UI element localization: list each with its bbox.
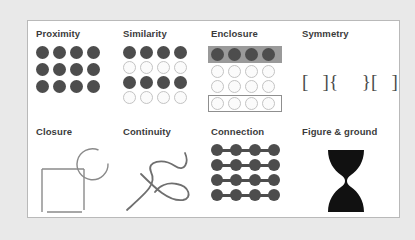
dot [123,76,136,89]
dot-row [36,46,104,59]
dot [245,48,258,61]
dot [230,144,242,156]
closure-art [36,144,124,218]
dot [262,80,275,93]
dot [228,97,241,110]
dot-row-connected [211,174,280,186]
dot [245,80,258,93]
dot [36,46,49,59]
cell-proximity: Proximity [36,28,104,97]
dot [211,65,224,78]
dot [140,46,153,59]
cell-title-symmetry: Symmetry [302,28,398,39]
enclosure-dot-grid [211,46,282,114]
cell-title-continuity: Continuity [123,126,211,137]
cell-figure-ground: Figure & ground [302,126,390,218]
dot [228,80,241,93]
dot-row [211,65,282,78]
dot [87,80,100,93]
dot [268,189,280,201]
dot-row [123,91,191,104]
dot [157,46,170,59]
crossing-curve-b-icon [141,174,189,200]
dot [211,174,223,186]
cell-title-closure: Closure [36,126,124,137]
figure-ground-art [302,144,390,218]
dot [174,46,187,59]
dot [157,91,170,104]
dot [268,144,280,156]
dot [53,63,66,76]
dot [211,159,223,171]
dot [174,76,187,89]
rubin-vase-icon [328,150,364,212]
similarity-dot-grid [123,46,191,106]
gestalt-principles-panel: Proximity Similarity [27,20,400,218]
dot [36,63,49,76]
cell-title-similarity: Similarity [123,28,191,39]
dot [123,91,136,104]
cell-continuity: Continuity [123,126,211,218]
dot-row [123,46,191,59]
dot-row [36,80,104,93]
dot [157,61,170,74]
dot-row [123,76,191,89]
dot [211,144,223,156]
dot [262,48,275,61]
dot [174,61,187,74]
symmetry-brackets: [ ]{ }[ ] [302,70,398,94]
dot [36,80,49,93]
dot [211,80,224,93]
dot [230,189,242,201]
dot-row [36,63,104,76]
dot [211,97,224,110]
dot-row-enclosed-band [208,46,282,63]
dot-row-connected [211,159,280,171]
dot [228,65,241,78]
cell-similarity: Similarity [123,28,191,106]
dot [230,159,242,171]
dot [230,174,242,186]
dot-row-connected [211,189,280,201]
dot [268,159,280,171]
dot [249,174,261,186]
dot-row-enclosed-box [208,95,282,112]
dot [211,189,223,201]
dot [87,63,100,76]
cell-title-enclosure: Enclosure [211,28,282,39]
dot [245,65,258,78]
open-circle-icon [77,149,108,180]
crossing-curve-a-icon [127,153,187,210]
cell-title-connection: Connection [211,126,280,137]
dot [53,80,66,93]
proximity-dot-grid [36,46,104,97]
dot [70,46,83,59]
dot [70,63,83,76]
cell-symmetry: Symmetry [ ]{ }[ ] [302,28,398,118]
dot [123,61,136,74]
dot-row [211,80,282,93]
cell-connection: Connection [211,126,280,204]
connection-dot-grid [211,144,280,204]
dot [262,97,275,110]
cell-enclosure: Enclosure [211,28,282,114]
cell-closure: Closure [36,126,124,218]
dot [140,61,153,74]
dot [87,46,100,59]
dot [140,76,153,89]
closure-shapes-svg [36,144,124,218]
cell-title-figure-ground: Figure & ground [302,126,390,137]
dot [157,76,170,89]
continuity-art [123,144,211,218]
dot [228,48,241,61]
dot [249,159,261,171]
dot [140,91,153,104]
dot [262,65,275,78]
cell-title-proximity: Proximity [36,28,104,39]
continuity-curves-svg [123,144,211,218]
dot-row-connected [211,144,280,156]
dot [211,48,224,61]
symmetry-art: [ ]{ }[ ] [302,46,398,118]
rubin-vase-svg [302,144,390,218]
dot [174,91,187,104]
